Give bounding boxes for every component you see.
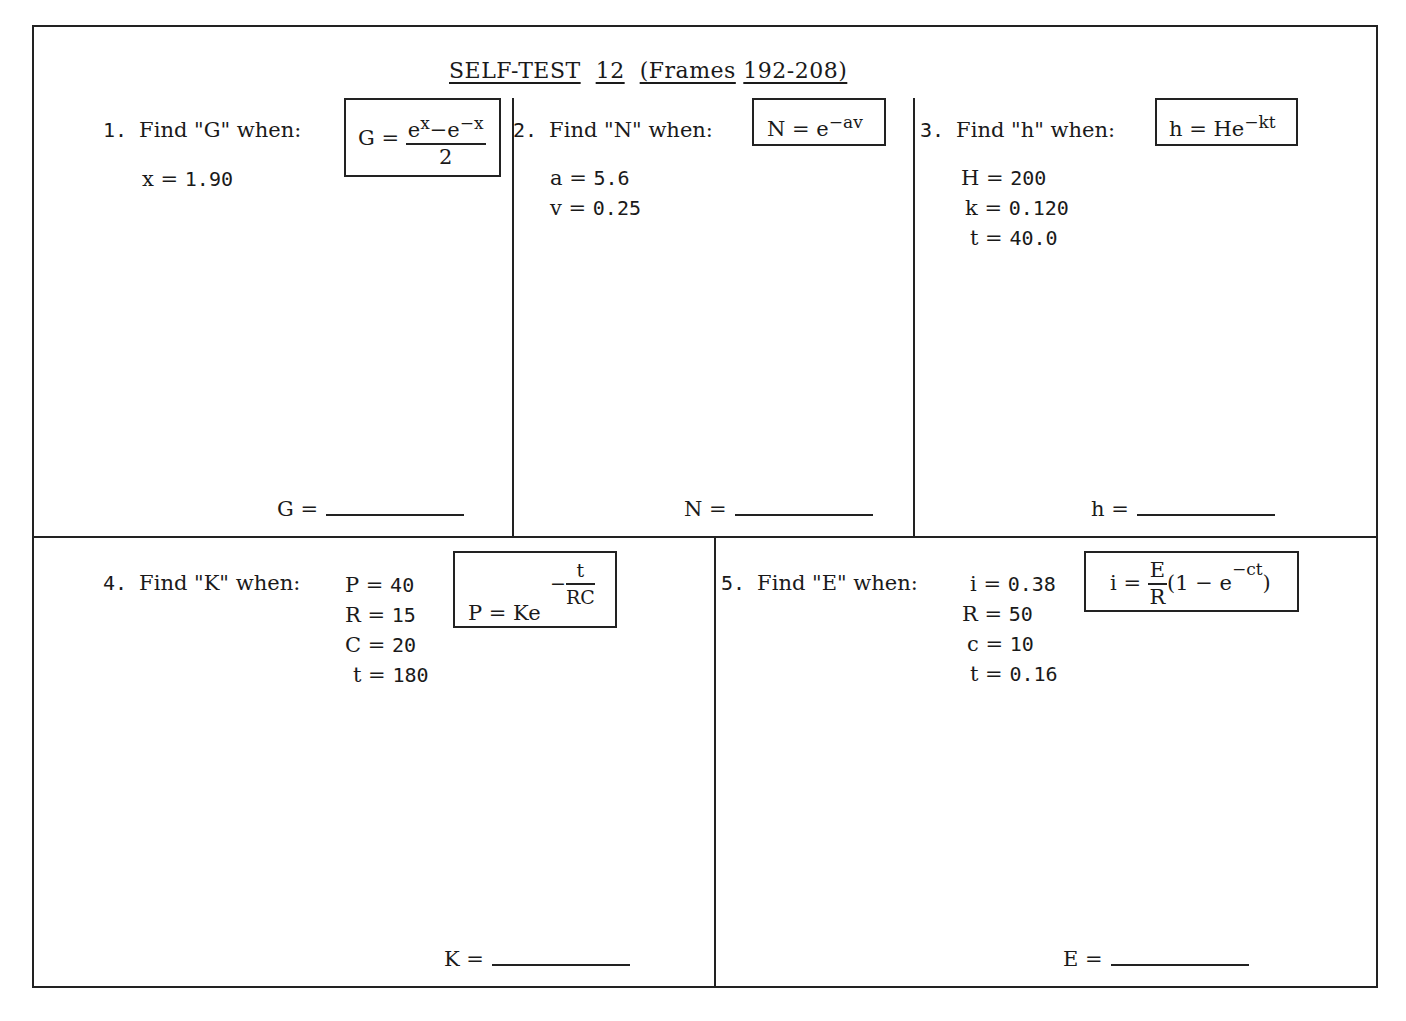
answer-label: K =: [444, 947, 484, 971]
problem-3-prompt: 3.Find "h" when:: [920, 118, 1115, 142]
problem-1-givens: x = 1.90: [142, 164, 233, 194]
page-title: SELF-TEST 12 (Frames 192-208): [449, 58, 847, 83]
title-number: 12: [596, 58, 625, 83]
prompt-text: Find "h" when:: [956, 118, 1115, 142]
given-x: x = 1.90: [142, 164, 233, 194]
problem-5-answer: E =: [1063, 946, 1249, 971]
problem-4-answer: K =: [444, 946, 630, 971]
formula-lhs: i =: [1110, 571, 1141, 595]
formula-exponent: −kt: [1244, 112, 1275, 132]
problem-number: 3.: [920, 118, 944, 142]
given-t: t = 180: [345, 660, 429, 690]
answer-blank-k[interactable]: [492, 946, 630, 966]
prompt-text: Find "K" when:: [139, 571, 300, 595]
answer-label: h =: [1091, 497, 1129, 521]
problem-4-formula: P = Ke −tRC: [453, 551, 617, 628]
formula-lhs: h = He: [1169, 117, 1244, 141]
formula-paren: (1 − e: [1167, 571, 1232, 595]
given-i: i = 0.38: [962, 569, 1058, 599]
problem-number: 5.: [721, 571, 745, 595]
formula-exponent: −av: [829, 112, 863, 132]
given-t: t = 0.16: [962, 659, 1058, 689]
answer-label: E =: [1063, 947, 1103, 971]
fraction-denominator: 2: [406, 145, 486, 169]
given-a: a = 5.6: [550, 163, 641, 193]
fraction-numerator: ex−e−x: [406, 110, 486, 145]
formula-lhs: G =: [358, 126, 399, 150]
answer-label: G =: [277, 497, 318, 521]
problem-5-givens: i = 0.38 R = 50 c = 10 t = 0.16: [962, 569, 1058, 689]
problem-1-formula: G = ex−e−x 2: [344, 98, 501, 177]
formula-lhs: P = Ke: [468, 601, 541, 625]
given-r: R = 50: [962, 599, 1058, 629]
problem-1-answer: G =: [277, 496, 464, 521]
self-test-sheet: SELF-TEST 12 (Frames 192-208) 1.Find "G"…: [0, 0, 1406, 1021]
problem-3-answer: h =: [1091, 496, 1275, 521]
problem-3-givens: H = 200 k = 0.120 t = 40.0: [961, 163, 1069, 253]
given-r: R = 15: [345, 600, 429, 630]
problem-4-prompt: 4.Find "K" when:: [103, 571, 300, 595]
problem-5-prompt: 5.Find "E" when:: [721, 571, 918, 595]
problem-2-formula: N = e−av: [752, 98, 886, 146]
formula-fraction: ex−e−x 2: [406, 110, 486, 169]
col-divider-1-2: [512, 98, 514, 537]
given-h: H = 200: [961, 163, 1069, 193]
problem-2-givens: a = 5.6 v = 0.25: [550, 163, 641, 223]
col-divider-2-3: [913, 98, 915, 537]
problem-5-formula: i = ER(1 − e−ct): [1084, 551, 1299, 612]
formula-lhs: N = e: [767, 117, 829, 141]
problem-1-prompt: 1.Find "G" when:: [103, 118, 301, 142]
answer-blank-g[interactable]: [326, 496, 464, 516]
formula-exponent: −tRC: [550, 557, 595, 609]
formula-exponent: −ct: [1232, 559, 1263, 579]
formula-fraction: ER: [1148, 557, 1167, 609]
problem-4-givens: P = 40 R = 15 C = 20 t = 180: [345, 570, 429, 690]
given-c: C = 20: [345, 630, 429, 660]
col-divider-4-5: [714, 537, 716, 988]
answer-blank-h[interactable]: [1137, 496, 1275, 516]
answer-blank-n[interactable]: [735, 496, 873, 516]
given-p: P = 40: [345, 570, 429, 600]
given-c: c = 10: [962, 629, 1058, 659]
title-frame-range: 192-208): [743, 58, 847, 83]
prompt-text: Find "N" when:: [549, 118, 713, 142]
given-v: v = 0.25: [550, 193, 641, 223]
prompt-text: Find "G" when:: [139, 118, 301, 142]
title-frames: (Frames: [640, 58, 736, 83]
row-divider: [32, 536, 1378, 538]
problem-3-formula: h = He−kt: [1155, 98, 1298, 146]
problem-number: 1.: [103, 118, 127, 142]
answer-label: N =: [684, 497, 727, 521]
problem-number: 2.: [513, 118, 537, 142]
prompt-text: Find "E" when:: [757, 571, 918, 595]
problem-2-answer: N =: [684, 496, 873, 521]
given-k: k = 0.120: [961, 193, 1069, 223]
problem-2-prompt: 2.Find "N" when:: [513, 118, 713, 142]
given-t: t = 40.0: [961, 223, 1069, 253]
problem-number: 4.: [103, 571, 127, 595]
answer-blank-e[interactable]: [1111, 946, 1249, 966]
title-self-test: SELF-TEST: [449, 58, 581, 83]
